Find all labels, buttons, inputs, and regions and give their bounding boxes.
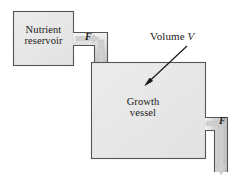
growth-vessel-label-line1: Growth (112, 96, 174, 107)
nutrient-reservoir-label: Nutrient reservoir (17, 24, 70, 47)
chemostat-diagram: Nutrient reservoir Growth vessel Volume … (0, 0, 245, 180)
growth-vessel-label-line2: vessel (112, 107, 174, 118)
volume-annotation: Volume V (150, 31, 194, 43)
inlet-flow-label: F (85, 32, 92, 43)
nutrient-reservoir-label-line1: Nutrient (17, 24, 70, 35)
nutrient-reservoir-label-line2: reservoir (17, 35, 70, 46)
growth-vessel-label: Growth vessel (112, 96, 174, 119)
outlet-pipe-outline-inner (205, 131, 215, 173)
outlet-flow-label: F (219, 116, 226, 127)
volume-annotation-text: Volume (150, 30, 185, 42)
volume-annotation-symbol: V (187, 30, 194, 42)
